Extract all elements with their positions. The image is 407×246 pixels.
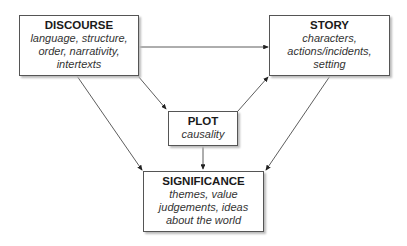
edge-discourse-plot: [138, 76, 166, 109]
node-title: STORY: [270, 19, 389, 32]
node-story: STORY characters, actions/incidents, set…: [269, 15, 390, 76]
node-desc-line: characters,: [270, 32, 389, 45]
node-discourse: DISCOURSE language, structure, order, na…: [19, 15, 139, 76]
edge-story-significance: [266, 76, 330, 170]
node-desc-line: themes, value: [144, 188, 263, 201]
node-title: SIGNIFICANCE: [144, 175, 263, 188]
node-desc-line: about the world: [144, 214, 263, 227]
edge-discourse-significance: [77, 76, 142, 170]
node-title: PLOT: [169, 115, 237, 128]
node-title: DISCOURSE: [20, 19, 138, 32]
node-desc-line: causality: [169, 128, 237, 141]
node-desc-line: setting: [270, 58, 389, 71]
node-desc-line: intertexts: [20, 58, 138, 71]
node-significance: SIGNIFICANCE themes, value judgements, i…: [143, 171, 264, 232]
node-desc-line: language, structure,: [20, 32, 138, 45]
node-desc-line: actions/incidents,: [270, 45, 389, 58]
edge-plot-story: [238, 77, 268, 111]
node-desc-line: order, narrativity,: [20, 45, 138, 58]
node-plot: PLOT causality: [168, 111, 238, 146]
node-desc-line: judgements, ideas: [144, 201, 263, 214]
